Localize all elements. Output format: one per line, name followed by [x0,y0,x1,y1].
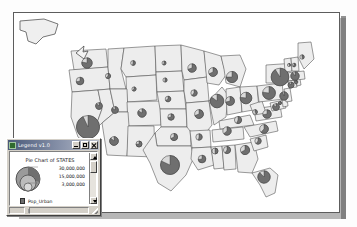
pie-symbol-co[interactable] [138,109,146,117]
pie-slice-urban [294,80,298,84]
pie-symbol-nv[interactable] [96,103,103,110]
pie-symbol-az[interactable] [110,137,119,146]
pie-symbol-sc[interactable] [255,138,261,144]
pie-symbol-mo[interactable] [195,110,204,119]
pie-symbol-vt[interactable] [287,63,290,66]
map-legend-icon [9,142,16,149]
legend-inner: Pie Chart of STATES 30,000,000 15,000,00… [10,152,89,205]
legend-item-urban[interactable]: Pop_Urban [20,197,87,205]
legend-content-panel[interactable]: Pie Chart of STATES 30,000,000 15,000,00… [9,151,98,206]
pie-symbol-ri[interactable] [294,80,298,84]
pie-symbol-va[interactable] [263,110,271,118]
pie-symbol-la[interactable] [198,155,206,163]
maximize-button[interactable] [81,141,89,149]
pie-slice-urban [110,137,119,146]
pie-symbol-wi[interactable] [209,68,218,77]
scroll-up-button[interactable] [90,153,97,160]
status-cell-main [29,207,89,214]
page-drop-shadow-edge [341,16,346,219]
pie-symbol-oh[interactable] [240,92,252,104]
state-mn [181,45,207,80]
pie-symbol-wv[interactable] [253,110,258,115]
pie-slice-urban [133,61,136,66]
pie-symbol-sd[interactable] [163,78,167,82]
pie-symbol-ny[interactable] [271,68,289,86]
legend-series-swatches: Pop_Urban Pop_Rural [13,197,87,206]
pie-symbol-ky[interactable] [234,116,241,123]
state-sd [156,71,184,92]
pie-slice-urban [258,171,270,183]
close-button[interactable] [90,141,98,149]
pie-symbol-al[interactable] [223,146,230,153]
pie-symbol-ga[interactable] [240,145,249,154]
pie-slice-urban [77,116,100,139]
scroll-down-button[interactable] [90,197,97,204]
pie-symbol-de[interactable] [278,101,281,104]
legend-vertical-scrollbar[interactable] [89,153,96,204]
pie-slice-urban [96,103,103,110]
pie-symbol-nm[interactable] [136,141,142,147]
pie-symbol-ar[interactable] [196,134,202,140]
pie-slice-urban [165,78,167,82]
legend-value-labels: 30,000,000 15,000,000 3,000,000 [43,165,87,189]
pie-slice-urban [291,72,299,80]
legend-pie-symbol [15,166,41,192]
pie-symbol-mn[interactable] [188,64,196,72]
legend-value-medium: 15,000,000 [43,173,87,181]
legend-titlebar[interactable]: Legend v1.0 [8,140,99,150]
state-wy [126,75,157,102]
state-mt [121,46,156,77]
pie-symbol-ms[interactable] [212,148,218,154]
legend-heading: Pie Chart of STATES [13,157,87,163]
pie-symbol-fl[interactable] [258,171,270,183]
chevron-up-icon [93,156,97,159]
pie-symbol-ca[interactable] [77,116,100,139]
pie-symbol-md[interactable] [273,104,280,111]
pie-slice-urban [302,55,304,59]
map-fragment-northwest [20,19,58,44]
legend-statusbar [9,207,98,214]
pie-slice-urban [280,92,288,100]
pie-symbol-ks[interactable] [168,114,174,120]
pie-symbol-me[interactable] [300,55,304,59]
legend-item-rural[interactable]: Pop_Rural [20,205,87,206]
pie-symbol-or[interactable] [76,77,84,85]
legend-label-pop-urban: Pop_Urban [28,199,53,204]
screenshot-root: Legend v1.0 Pie Chart of STATES [0,0,357,227]
legend-window-title: Legend v1.0 [18,142,72,148]
legend-window[interactable]: Legend v1.0 Pie Chart of STATES [6,138,101,216]
state-or [69,67,110,92]
swatch-pop-urban [20,198,25,204]
pie-symbol-mi[interactable] [226,71,237,82]
pie-symbol-il[interactable] [210,94,224,108]
window-controls [72,141,98,149]
pie-symbol-wa[interactable] [82,58,92,68]
pie-symbol-tn[interactable] [223,127,231,135]
pie-symbol-ut[interactable] [112,107,119,114]
minimize-button[interactable] [72,141,80,149]
state-nd [155,45,182,72]
scrollbar-thumb[interactable] [90,161,97,173]
state-ia [184,77,209,103]
pie-slice-urban [271,68,289,86]
pie-symbol-nj[interactable] [280,92,288,100]
status-cell-left [9,207,25,214]
legend-size-classes: 30,000,000 15,000,000 3,000,000 [13,165,87,195]
pie-symbol-tx[interactable] [161,156,180,175]
pie-symbol-ia[interactable] [191,90,197,96]
pie-symbol-nc[interactable] [260,125,269,134]
pie-symbol-ct[interactable] [288,82,294,88]
pie-symbol-ma[interactable] [291,72,299,80]
pie-symbol-nd[interactable] [162,61,166,65]
state-ne [157,91,186,109]
pie-symbol-nh[interactable] [292,63,296,67]
pie-symbol-wy[interactable] [132,87,136,91]
pie-symbol-id[interactable] [105,73,110,78]
pie-symbol-ok[interactable] [170,133,177,140]
legend-value-small: 3,000,000 [43,181,87,189]
pie-symbol-pa[interactable] [263,87,276,100]
pie-symbol-mt[interactable] [131,61,136,66]
resize-grip-icon[interactable] [90,207,98,214]
pie-symbol-in[interactable] [226,97,235,106]
pie-symbol-ne[interactable] [165,96,171,102]
